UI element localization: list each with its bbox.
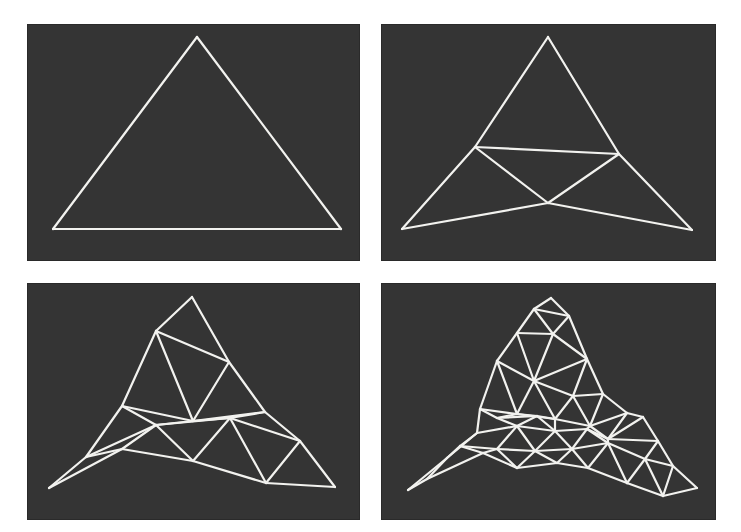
mesh-edge — [608, 417, 643, 439]
mesh-edges-stage-4 — [408, 298, 697, 496]
mesh-edge — [53, 37, 197, 229]
mesh-edge — [555, 396, 573, 419]
mesh-edge — [673, 466, 697, 488]
mesh-edge — [517, 381, 534, 414]
mesh-edge — [300, 441, 335, 487]
mesh-edge — [477, 409, 480, 433]
mesh-edge — [402, 147, 475, 229]
mesh-edge — [266, 483, 335, 487]
mesh-edge — [483, 449, 497, 453]
mesh-edge — [475, 147, 548, 203]
mesh-edge — [193, 362, 229, 421]
mesh-edge — [193, 418, 230, 421]
mesh-svg-stage-2 — [381, 24, 716, 261]
mesh-panel-stage-1 — [27, 24, 360, 261]
mesh-edge — [548, 154, 619, 203]
mesh-edge — [193, 418, 230, 461]
mesh-edge — [535, 451, 557, 463]
mesh-edge — [627, 413, 643, 417]
mesh-edge — [517, 426, 535, 451]
mesh-edge — [497, 449, 535, 451]
mesh-edge — [229, 362, 265, 412]
mesh-edge — [122, 406, 193, 421]
mesh-edge — [192, 297, 229, 362]
mesh-edge — [587, 359, 603, 394]
mesh-edge — [402, 203, 548, 229]
mesh-edge — [475, 37, 548, 147]
mesh-edge — [573, 394, 603, 396]
mesh-edge — [608, 439, 658, 441]
mesh-edge — [497, 449, 517, 468]
mesh-edge — [555, 431, 572, 449]
mesh-edge — [535, 431, 555, 451]
mesh-edge — [663, 488, 697, 496]
mesh-edge — [603, 394, 627, 413]
mesh-edge — [517, 333, 553, 334]
cropped-caption-fragment — [0, 0, 741, 6]
mesh-edge — [573, 396, 590, 426]
mesh-edge — [643, 417, 658, 441]
mesh-edges-stage-3 — [49, 297, 335, 488]
mesh-edge — [265, 412, 300, 441]
mesh-svg-stage-4 — [381, 283, 716, 520]
mesh-edge — [534, 298, 551, 309]
mesh-edge — [49, 457, 86, 488]
mesh-edge — [553, 316, 569, 334]
mesh-edge — [447, 446, 460, 458]
mesh-edge — [535, 449, 572, 451]
mesh-edge — [480, 361, 497, 409]
mesh-edge — [49, 449, 122, 488]
mesh-edge — [627, 459, 645, 483]
mesh-panel-stage-4 — [381, 283, 716, 520]
mesh-edge — [663, 466, 673, 496]
mesh-edge — [408, 458, 447, 490]
mesh-panel-stage-2 — [381, 24, 716, 261]
mesh-edge — [645, 441, 658, 459]
mesh-edge — [122, 425, 156, 449]
mesh-edge — [497, 418, 517, 426]
mesh-edge — [427, 453, 483, 479]
mesh-edges-stage-1 — [53, 37, 341, 229]
mesh-edge — [557, 449, 572, 463]
mesh-svg-stage-3 — [27, 283, 360, 520]
mesh-edge — [497, 333, 517, 361]
mesh-edge — [555, 429, 587, 431]
mesh-edge — [517, 309, 534, 333]
mesh-edge — [122, 331, 156, 406]
mesh-edge — [197, 37, 341, 229]
mesh-edge — [475, 147, 619, 154]
mesh-edge — [483, 453, 517, 468]
mesh-edge — [555, 419, 590, 426]
mesh-edge — [266, 441, 300, 483]
mesh-edge — [548, 37, 619, 154]
mesh-svg-stage-1 — [27, 24, 360, 261]
mesh-edge — [156, 297, 192, 331]
mesh-panel-stage-3 — [27, 283, 360, 520]
mesh-edges-stage-2 — [402, 37, 692, 230]
